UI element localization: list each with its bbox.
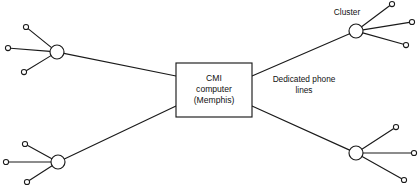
cluster-bottom-left-terminal-node-2[interactable]	[3, 159, 8, 164]
cluster-bottom-right-spoke-line-1	[362, 128, 394, 149]
cluster-bottom-left-terminal-node-3[interactable]	[24, 179, 29, 184]
dedicated-phone-lines-label-line-2: lines	[295, 85, 312, 95]
cluster-top-left-spoke-line-3	[26, 56, 51, 71]
cluster-top-left-spoke-line-2	[11, 48, 50, 51]
cluster-top-right-terminal-node-2[interactable]	[409, 19, 414, 24]
cluster-bottom-left-hub-node[interactable]	[51, 155, 65, 169]
cluster-top-right-hub-node[interactable]	[349, 24, 363, 38]
cluster-bottom-right-hub-node[interactable]	[349, 146, 363, 160]
cluster-top-right-spoke-line-3	[363, 33, 404, 44]
cmi-computer-box-label-line-3: (Memphis)	[194, 95, 235, 105]
cluster-label: Cluster	[334, 7, 361, 17]
cluster-top-right-spoke-line-2	[363, 22, 410, 29]
cluster-bottom-left-trunk-line	[64, 106, 176, 159]
cluster-top-left-terminal-node-3[interactable]	[21, 69, 26, 74]
network-diagram: CMI computer (Memphis) Cluster Dedicated…	[0, 0, 420, 194]
cluster-top-right-trunk-line	[252, 34, 350, 76]
dedicated-phone-lines-label-line-1: Dedicated phone	[273, 74, 336, 84]
cmi-computer-box-label-line-2: computer	[196, 84, 232, 94]
cluster-top-left-spoke-line-1	[28, 29, 52, 48]
cluster-top-left-terminal-node-2[interactable]	[5, 45, 10, 50]
cluster-top-left-trunk-line	[64, 53, 176, 76]
cluster-top-right-spoke-line-1	[362, 6, 390, 27]
cmi-computer-box-label-line-1: CMI	[206, 73, 222, 83]
cluster-top-left-terminal-node-1[interactable]	[23, 24, 28, 29]
cluster-bottom-left-spoke-line-3	[29, 166, 52, 181]
cluster-top-left-hub-node[interactable]	[50, 45, 64, 59]
cluster-bottom-left-terminal-node-1[interactable]	[22, 141, 27, 146]
cluster-bottom-right-terminal-node-3[interactable]	[401, 177, 406, 182]
cluster-top-right-terminal-node-3[interactable]	[403, 42, 408, 47]
cluster-bottom-right-terminal-node-1[interactable]	[393, 124, 398, 129]
cluster-bottom-right-spoke-line-3	[362, 156, 402, 178]
cluster-top-right-terminal-node-1[interactable]	[389, 1, 394, 6]
cluster-bottom-left-spoke-line-1	[27, 145, 52, 158]
diagram-canvas: CMI computer (Memphis) Cluster Dedicated…	[0, 0, 420, 194]
cluster-bottom-right-terminal-node-2[interactable]	[411, 150, 416, 155]
cluster-bottom-right-trunk-line	[252, 106, 350, 150]
